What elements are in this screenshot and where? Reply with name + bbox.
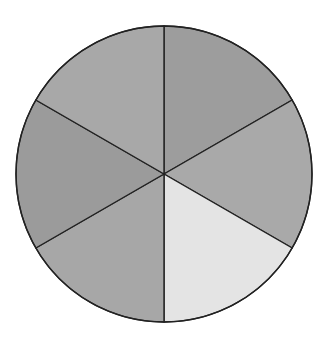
sector-circle-diagram — [0, 0, 327, 344]
